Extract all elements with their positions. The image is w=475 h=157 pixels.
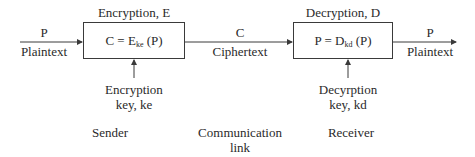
ciphertext-symbol: C xyxy=(205,25,275,40)
input-symbol: P xyxy=(20,25,68,40)
decryption-box: P = Dkd (P) xyxy=(293,22,393,59)
output-symbol: P xyxy=(405,25,455,40)
link-label-2: link xyxy=(195,140,285,155)
input-label: Plaintext xyxy=(18,44,70,59)
decryption-title: Decryption, D xyxy=(293,5,393,20)
output-label: Plaintext xyxy=(400,44,460,59)
decryption-key-label-1: Decyrption xyxy=(308,82,388,97)
sender-label: Sender xyxy=(80,125,140,140)
decryption-formula: P = Dkd (P) xyxy=(314,33,371,49)
encryption-key-label-1: Encryption xyxy=(94,82,174,97)
link-label-1: Communication xyxy=(195,125,285,140)
encryption-key-label-2: key, ke xyxy=(94,97,174,112)
encryption-title: Encryption, E xyxy=(83,5,185,20)
encryption-box: C = Eke (P) xyxy=(83,22,185,59)
ciphertext-label: Ciphertext xyxy=(200,44,280,59)
receiver-label: Receiver xyxy=(316,125,386,140)
decryption-key-label-2: key, kd xyxy=(308,97,388,112)
encryption-formula: C = Eke (P) xyxy=(105,33,162,49)
